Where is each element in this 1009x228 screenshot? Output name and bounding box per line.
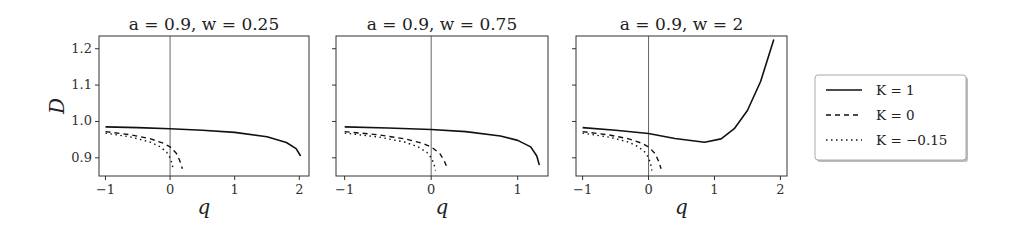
series-line-dotted xyxy=(106,133,174,170)
x-tick-label: −1 xyxy=(335,182,354,197)
series-line-solid xyxy=(106,127,301,156)
series-line-solid xyxy=(583,40,774,143)
panel-2: a = 0.9, w = 0.75−101q xyxy=(332,14,548,219)
x-tick-label: 0 xyxy=(166,182,174,197)
panel-title: a = 0.9, w = 0.75 xyxy=(367,14,518,34)
panel-1: a = 0.9, w = 0.25−10120.91.01.11.2qD xyxy=(45,14,309,219)
x-tick-label: 0 xyxy=(644,182,652,197)
panel-title: a = 0.9, w = 2 xyxy=(620,14,743,34)
legend: K = 1 K = 0 K = −0.15 xyxy=(815,75,968,162)
x-tick-label: 1 xyxy=(231,182,239,197)
x-tick-label: −1 xyxy=(96,182,115,197)
x-tick-label: 0 xyxy=(427,182,435,197)
series-line-dashed xyxy=(106,132,183,169)
axes-frame xyxy=(576,36,787,176)
y-tick-label: 1.1 xyxy=(71,77,92,92)
series-line-dotted xyxy=(345,133,436,170)
x-axis-label: q xyxy=(675,195,688,219)
y-tick-label: 1.0 xyxy=(71,113,92,128)
x-tick-label: 2 xyxy=(776,182,784,197)
axes-frame xyxy=(336,36,548,176)
legend-label-k1: K = 1 xyxy=(876,82,915,98)
x-tick-label: 1 xyxy=(514,182,522,197)
legend-label-k0: K = 0 xyxy=(876,107,915,123)
series-line-solid xyxy=(345,127,540,165)
x-axis-label: q xyxy=(198,195,211,219)
panel-title: a = 0.9, w = 0.25 xyxy=(129,14,280,34)
series-line-dotted xyxy=(583,133,652,170)
series-line-dashed xyxy=(345,132,448,169)
panel-3: a = 0.9, w = 2−1012q xyxy=(572,14,787,219)
x-tick-label: 2 xyxy=(295,182,303,197)
y-tick-label: 0.9 xyxy=(71,150,92,165)
x-axis-label: q xyxy=(436,195,449,219)
x-tick-label: −1 xyxy=(573,182,592,197)
y-axis-label: D xyxy=(45,98,69,115)
x-tick-label: 1 xyxy=(710,182,718,197)
y-tick-label: 1.2 xyxy=(71,41,92,56)
series-line-dashed xyxy=(583,132,662,169)
legend-label-kneg: K = −0.15 xyxy=(876,132,947,148)
figure: a = 0.9, w = 0.25−10120.91.01.11.2qD a =… xyxy=(0,0,1009,228)
axes-frame xyxy=(99,36,309,176)
